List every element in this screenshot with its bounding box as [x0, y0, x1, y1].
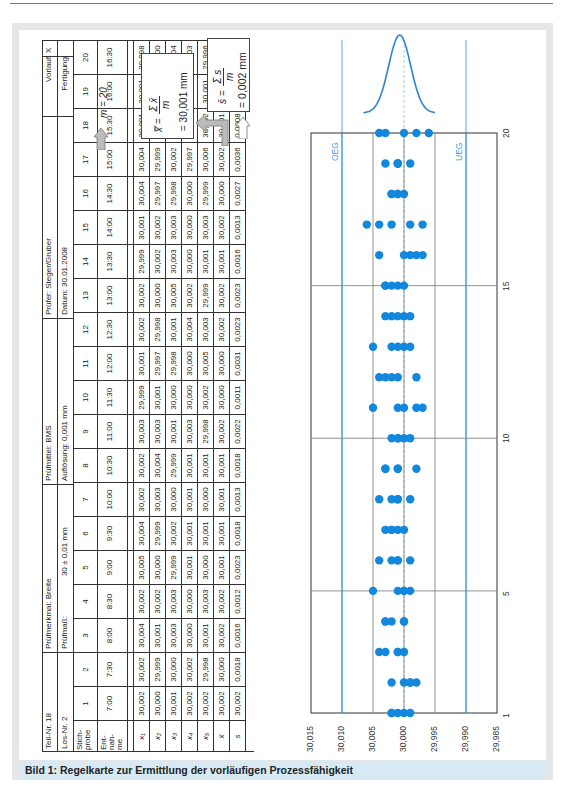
data-point — [394, 648, 402, 656]
data-point — [369, 342, 377, 350]
value-axis-tick: 29,985 — [491, 726, 501, 752]
data-point — [406, 678, 414, 686]
value-axis-tick: 30,010 — [336, 726, 346, 752]
value-axis-tick: 30,005 — [367, 726, 377, 752]
data-point — [387, 709, 395, 717]
sample-axis-tick: 5 — [501, 591, 511, 596]
data-point — [375, 220, 383, 228]
data-point — [418, 220, 426, 228]
data-point — [406, 342, 414, 350]
control-chart-plot — [0, 0, 563, 789]
value-axis-tick: 30,000 — [398, 726, 408, 752]
data-point — [394, 373, 402, 381]
sample-axis-tick: 20 — [501, 129, 511, 138]
data-point — [406, 434, 414, 442]
data-point — [381, 465, 389, 473]
data-point — [394, 495, 402, 503]
data-point — [363, 220, 371, 228]
data-point — [394, 556, 402, 564]
data-point — [400, 617, 408, 625]
data-point — [412, 465, 420, 473]
data-point — [387, 220, 395, 228]
data-point — [406, 709, 414, 717]
sample-axis-tick: 1 — [501, 713, 511, 718]
data-point — [375, 556, 383, 564]
data-point — [400, 404, 408, 412]
data-point — [394, 465, 402, 473]
data-point — [381, 159, 389, 167]
data-point — [406, 159, 414, 167]
data-point — [406, 220, 414, 228]
data-point — [400, 587, 408, 595]
value-axis-tick: 29,990 — [460, 726, 470, 752]
data-point — [412, 129, 420, 137]
data-point — [406, 312, 414, 320]
data-point — [400, 526, 408, 534]
data-point — [381, 281, 389, 289]
data-point — [418, 251, 426, 259]
data-point — [375, 251, 383, 259]
data-point — [394, 190, 402, 198]
data-point — [394, 159, 402, 167]
data-point — [387, 526, 395, 534]
ueg-label: UEG — [454, 143, 464, 161]
data-point — [387, 678, 395, 686]
sample-axis-tick: 15 — [501, 281, 511, 290]
data-point — [369, 587, 377, 595]
data-point — [369, 404, 377, 412]
data-point — [400, 129, 408, 137]
sample-axis-tick: 10 — [501, 434, 511, 443]
data-point — [381, 617, 389, 625]
data-point — [425, 129, 433, 137]
oeg-label: OEG — [330, 142, 340, 161]
data-point — [394, 434, 402, 442]
data-point — [381, 129, 389, 137]
data-point — [400, 251, 408, 259]
normal-distribution-curve — [363, 35, 435, 113]
data-point — [406, 495, 414, 503]
value-axis-tick: 30,015 — [305, 726, 315, 752]
data-point — [418, 404, 426, 412]
data-point — [375, 495, 383, 503]
data-point — [412, 373, 420, 381]
data-point — [400, 281, 408, 289]
value-axis-tick: 29,995 — [429, 726, 439, 752]
data-point — [406, 556, 414, 564]
data-point — [381, 648, 389, 656]
